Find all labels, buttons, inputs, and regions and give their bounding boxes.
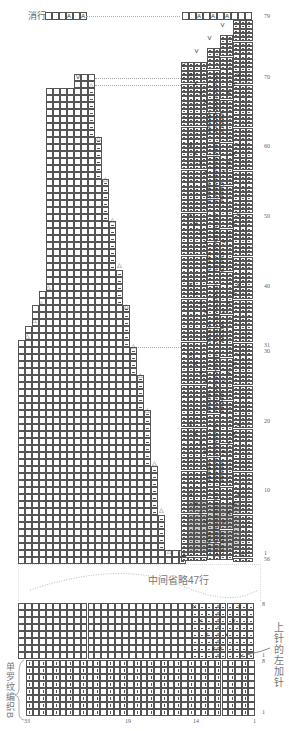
increase-note: 上针的左加针	[270, 622, 285, 688]
brace-and-arrow	[0, 0, 289, 731]
